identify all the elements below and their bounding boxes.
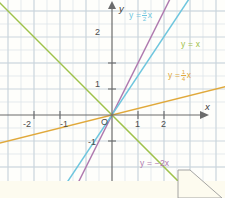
coordinate-plane-figure: y =32x y = x y =14x y = −2x -2 -1 1 2 2 … (0, 0, 225, 198)
plot-surface (0, 0, 225, 198)
